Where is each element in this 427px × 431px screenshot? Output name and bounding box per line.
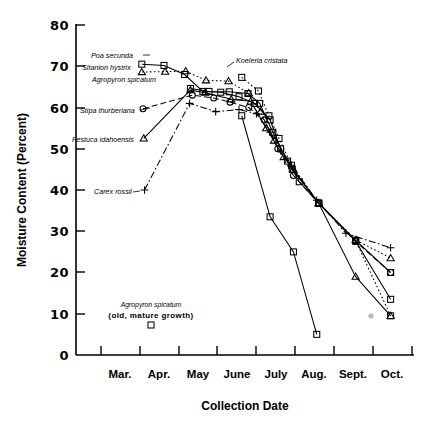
x-tick-label-aug: Aug. <box>301 368 327 380</box>
annotation-line-2: (old, mature growth) <box>108 311 193 320</box>
scan-artifact-dot <box>368 313 373 318</box>
y-tick-label-80: 80 <box>50 18 69 33</box>
x-ticks <box>101 346 412 355</box>
x-tick-label-oct: Oct. <box>381 368 403 380</box>
square-marker <box>239 74 245 80</box>
series-sitanion-hystrix <box>138 68 394 261</box>
x-tick-label-july: July <box>264 368 288 380</box>
series-stipa-thurberiana <box>140 92 394 275</box>
x-tick-label-mar: Mar. <box>108 368 131 380</box>
leader-koeleria <box>227 62 234 67</box>
y-tick-label-0: 0 <box>59 348 69 363</box>
y-tick-label-10: 10 <box>50 307 69 322</box>
y-axis-title: Moisture Content (Percent) <box>15 113 29 267</box>
annotation-old-growth: Agropyron spicatum (old, mature growth) <box>108 301 193 328</box>
plus-marker <box>387 244 395 252</box>
series-label-agropyron-spicatum: Agropyron spicatum <box>91 75 156 84</box>
annotation-line-1: Agropyron spicatum <box>120 301 182 309</box>
plus-marker <box>212 108 220 116</box>
x-tick-label-june: June <box>224 368 251 380</box>
data-series-layer <box>138 61 394 337</box>
series-line <box>145 103 391 247</box>
triangle-marker <box>182 68 189 74</box>
series-line <box>144 90 391 316</box>
y-tick-label-40: 40 <box>50 183 69 198</box>
series-agropyron-spicatum <box>187 86 393 303</box>
y-tick-labels: 80 70 60 50 40 30 20 10 0 <box>50 18 69 363</box>
y-tick-label-70: 70 <box>50 59 69 74</box>
triangle-marker <box>202 77 209 83</box>
series-label-koeleria-cristata: Koeleria cristata <box>236 56 288 65</box>
series-label-festuca-idahoensis: Festuca idahoensis <box>72 135 134 144</box>
leader-carex <box>133 191 140 192</box>
square-marker <box>388 296 394 302</box>
plus-marker <box>235 106 243 114</box>
chart-svg: 80 70 60 50 40 30 20 10 0 Mar. Apr. May <box>0 0 427 431</box>
moisture-content-chart: 80 70 60 50 40 30 20 10 0 Mar. Apr. May <box>0 0 427 431</box>
square-marker <box>239 113 245 119</box>
series-label-sitanion-hystrix: Sitanion hystrix <box>82 63 131 72</box>
y-tick-label-50: 50 <box>50 142 69 157</box>
x-axis-title: Collection Date <box>201 399 289 413</box>
series-line <box>190 89 390 300</box>
triangle-marker <box>387 254 394 260</box>
plus-marker <box>342 230 350 238</box>
x-tick-label-may: May <box>187 368 210 380</box>
series-label-stipa-thurberiana: Stipa thurberiana <box>80 106 135 115</box>
y-tick-label-60: 60 <box>50 101 69 116</box>
plus-marker <box>186 100 194 108</box>
series-label-poa-secunda: Poa secunda <box>91 51 133 60</box>
y-tick-label-30: 30 <box>50 224 69 239</box>
plus-marker <box>141 186 149 194</box>
annotation-square-marker <box>148 322 154 328</box>
x-tick-labels: Mar. Apr. May June July Aug. Sept. Oct. <box>108 368 403 380</box>
x-tick-label-apr: Apr. <box>148 368 170 380</box>
series-label-carex-rossii: Carex rossii <box>94 187 132 196</box>
x-tick-label-sept: Sept. <box>339 368 367 380</box>
y-tick-label-20: 20 <box>50 265 69 280</box>
series-line <box>242 116 317 335</box>
